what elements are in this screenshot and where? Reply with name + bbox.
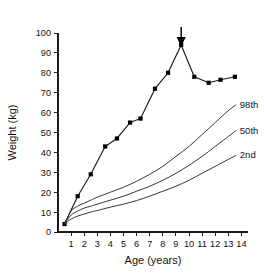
y-tick-label: 90 bbox=[41, 48, 51, 58]
y-tick-label: 10 bbox=[41, 208, 51, 218]
data-point-marker bbox=[115, 136, 119, 140]
y-tick-label: 70 bbox=[41, 88, 51, 98]
data-point-marker bbox=[76, 194, 80, 198]
y-axis-title: Weight (kg) bbox=[6, 104, 18, 160]
y-tick-label: 30 bbox=[41, 168, 51, 178]
x-tick-label: 14 bbox=[236, 239, 246, 249]
x-tick-label: 5 bbox=[121, 239, 126, 249]
x-tick-label: 7 bbox=[147, 239, 152, 249]
weight-growth-chart: 0102030405060708090100123456789101112131… bbox=[0, 0, 264, 275]
x-tick-label: 11 bbox=[197, 239, 207, 249]
data-point-marker bbox=[166, 71, 170, 75]
centile-label-2nd: 2nd bbox=[240, 149, 256, 160]
x-tick-label: 10 bbox=[184, 239, 194, 249]
y-tick-label: 20 bbox=[41, 188, 51, 198]
y-tick-label: 0 bbox=[46, 227, 51, 237]
x-tick-label: 4 bbox=[108, 239, 113, 249]
x-axis-title: Age (years) bbox=[125, 254, 182, 266]
chart-canvas: 0102030405060708090100123456789101112131… bbox=[0, 0, 264, 275]
centile-line-50th bbox=[65, 131, 237, 225]
centile-label-50th: 50th bbox=[240, 125, 258, 136]
y-tick-label: 80 bbox=[41, 68, 51, 78]
centile-label-98th: 98th bbox=[240, 99, 258, 110]
peak-arrow-head bbox=[177, 37, 186, 47]
x-tick-label: 13 bbox=[223, 239, 233, 249]
x-tick-label: 2 bbox=[82, 239, 87, 249]
x-tick-label: 1 bbox=[69, 239, 74, 249]
y-tick-label: 60 bbox=[41, 108, 51, 118]
x-tick-label: 8 bbox=[160, 239, 165, 249]
y-tick-label: 40 bbox=[41, 148, 51, 158]
data-point-marker bbox=[233, 75, 237, 79]
data-point-marker bbox=[192, 75, 196, 79]
data-point-marker bbox=[207, 81, 211, 85]
series-line-patient-weight bbox=[65, 45, 235, 224]
data-point-marker bbox=[89, 172, 93, 176]
data-point-marker bbox=[128, 120, 132, 124]
x-tick-label: 6 bbox=[134, 239, 139, 249]
data-point-marker bbox=[103, 144, 107, 148]
centile-line-2nd bbox=[65, 155, 237, 224]
y-tick-label: 100 bbox=[36, 28, 51, 38]
y-tick-label: 50 bbox=[41, 128, 51, 138]
data-point-marker bbox=[218, 78, 222, 82]
x-tick-label: 3 bbox=[95, 239, 100, 249]
data-point-marker bbox=[138, 116, 142, 120]
x-tick-label: 12 bbox=[210, 239, 220, 249]
x-tick-label: 9 bbox=[173, 239, 178, 249]
data-point-marker bbox=[153, 87, 157, 91]
